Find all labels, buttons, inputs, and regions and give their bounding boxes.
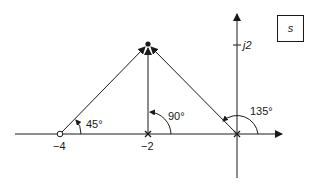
test-point-marker bbox=[145, 41, 150, 46]
zero-marker bbox=[57, 131, 63, 137]
angle-label-90: 90° bbox=[168, 111, 185, 122]
zero-label: −4 bbox=[53, 141, 66, 152]
pole-label: −2 bbox=[141, 141, 154, 152]
angle-label-135: 135° bbox=[250, 106, 273, 117]
s-plane-label-box: s bbox=[277, 15, 304, 42]
s-plane-diagram bbox=[0, 0, 317, 186]
angle-arc-45 bbox=[76, 120, 81, 134]
angle-label-45: 45° bbox=[86, 119, 103, 130]
imaginary-axis bbox=[233, 14, 241, 178]
s-plane-label: s bbox=[288, 23, 294, 34]
vector-from-zero-minus4 bbox=[62, 47, 145, 132]
j2-label: j2 bbox=[243, 40, 252, 51]
vector-from-pole-origin bbox=[151, 47, 237, 134]
